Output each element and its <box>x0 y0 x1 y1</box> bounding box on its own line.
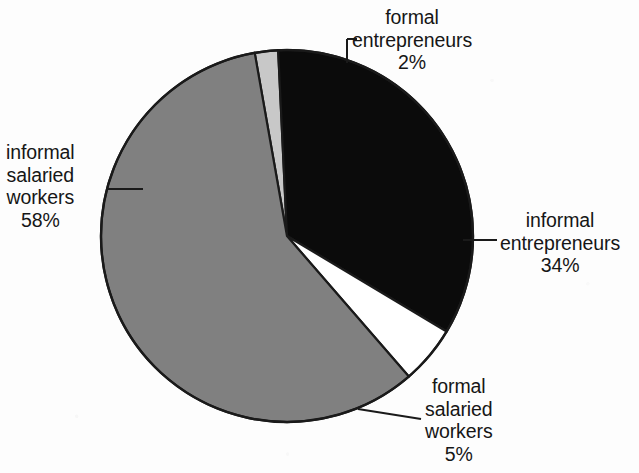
pie-label-informal-entrepreneurs-percent: 34% <box>500 254 620 277</box>
pie-label-informal-salaried-workers-line-1: informal <box>6 141 75 164</box>
pie-label-informal-salaried-workers-percent: 58% <box>6 209 75 232</box>
pie-label-formal-entrepreneurs-line-2: entrepreneurs <box>352 29 472 52</box>
pie-label-formal-salaried-workers-line-2: salaried <box>425 398 493 421</box>
pie-label-formal-salaried-workers-line-3: workers <box>425 420 493 443</box>
pie-label-informal-entrepreneurs-line-2: entrepreneurs <box>500 232 620 255</box>
pie-label-informal-entrepreneurs: informal entrepreneurs 34% <box>500 209 620 277</box>
pie-label-informal-entrepreneurs-line-1: informal <box>500 209 620 232</box>
pie-label-formal-salaried-workers: formal salaried workers 5% <box>425 375 493 465</box>
pie-label-formal-salaried-workers-percent: 5% <box>425 443 493 466</box>
pie-label-informal-salaried-workers: informal salaried workers 58% <box>6 141 75 231</box>
pie-label-formal-entrepreneurs-percent: 2% <box>352 51 472 74</box>
pie-label-informal-salaried-workers-line-2: salaried <box>6 164 75 187</box>
leader-line-formal-salaried-workers <box>358 409 421 419</box>
pie-chart-page: formal entrepreneurs 2% informal entrepr… <box>0 0 639 473</box>
pie-label-informal-salaried-workers-line-3: workers <box>6 186 75 209</box>
pie-label-formal-entrepreneurs-line-1: formal <box>352 6 472 29</box>
pie-label-formal-entrepreneurs: formal entrepreneurs 2% <box>352 6 472 74</box>
pie-label-formal-salaried-workers-line-1: formal <box>425 375 493 398</box>
